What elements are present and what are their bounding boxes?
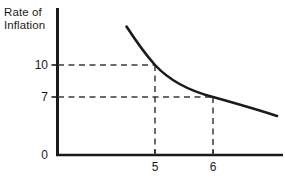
- inflation-rate-chart: Rate of Inflation 10 7 0 5 6: [0, 0, 285, 186]
- y-tick-label-10: 10: [12, 58, 48, 72]
- x-tick-label-6: 6: [202, 160, 224, 174]
- y-tick-label-7: 7: [12, 90, 48, 104]
- origin-label: 0: [12, 148, 48, 162]
- inflation-curve: [127, 27, 278, 117]
- y-axis-title-line2: Inflation: [4, 19, 45, 32]
- y-axis-title-line1: Rate of: [4, 6, 42, 19]
- x-tick-label-5: 5: [144, 160, 166, 174]
